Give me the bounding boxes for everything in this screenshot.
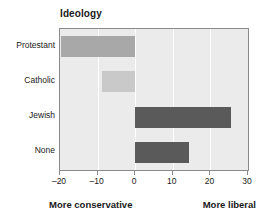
caption-more-liberal: More liberal [203,199,256,210]
x-axis-tick-label: –20 [52,176,66,186]
chart-figure: Ideology ProtestantCatholicJewishNone –2… [0,0,266,222]
x-axis-tick-label: 0 [132,176,137,186]
tickmark [97,171,98,175]
tickmark [134,171,135,175]
y-axis-label-jewish: Jewish [1,110,55,120]
tickmark [59,171,60,175]
gridline [210,29,211,170]
tickmark [172,171,173,175]
plot-area [59,28,249,171]
bar [135,107,231,128]
chart-title: Ideology [60,8,102,19]
bar [135,142,188,163]
bar [102,71,135,92]
caption-more-conservative: More conservative [49,199,132,210]
x-axis-tick-label: 30 [242,176,251,186]
y-axis-label-catholic: Catholic [1,75,55,85]
bar [61,36,135,57]
y-axis-label-protestant: Protestant [1,40,55,50]
x-axis-tick-label: –10 [90,176,104,186]
tickmark [209,171,210,175]
y-axis-labels: ProtestantCatholicJewishNone [0,28,55,171]
y-axis-label-none: None [1,145,55,155]
x-axis-tick-labels: –20–100102030 [0,176,266,190]
tickmark [247,171,248,175]
x-axis-tick-label: 20 [205,176,214,186]
x-axis-tick-label: 10 [167,176,176,186]
